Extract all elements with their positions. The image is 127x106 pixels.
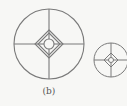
figure-caption: (b) — [38, 86, 60, 96]
large-reticle-symbol — [14, 9, 84, 79]
small-inner-circle — [109, 58, 114, 63]
small-reticle-symbol — [94, 43, 127, 77]
diagram-canvas — [0, 0, 127, 106]
large-inner-circle — [44, 39, 54, 49]
